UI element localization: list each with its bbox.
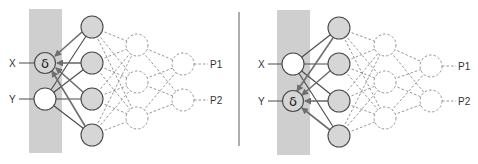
left-panel: δ X Y P1 P2 [9, 9, 223, 153]
output-label-p2: P2 [458, 96, 471, 107]
hidden-layer-2 [374, 34, 396, 129]
hidden-layer-1 [328, 17, 350, 147]
output-layer [420, 55, 442, 112]
input-label-x: X [9, 58, 16, 69]
right-panel: δ X Y P1 P2 [258, 10, 471, 155]
hidden-layer-2 [126, 34, 148, 129]
neural-network-diagram: δ X Y P1 P2 [0, 0, 478, 164]
output-label-p1: P1 [210, 59, 223, 70]
delta-symbol: δ [289, 94, 297, 109]
input-label-y: Y [258, 96, 265, 107]
hidden-layer-1 [81, 16, 103, 146]
input-label-y: Y [9, 94, 16, 105]
output-label-p1: P1 [458, 61, 471, 72]
dashed-connections [92, 27, 208, 135]
output-layer [172, 53, 194, 111]
delta-symbol: δ [41, 56, 49, 71]
input-label-x: X [258, 59, 265, 70]
input-node-y [34, 88, 56, 110]
output-label-p2: P2 [210, 95, 223, 106]
input-node-x [282, 53, 304, 75]
dashed-connections [339, 28, 456, 136]
